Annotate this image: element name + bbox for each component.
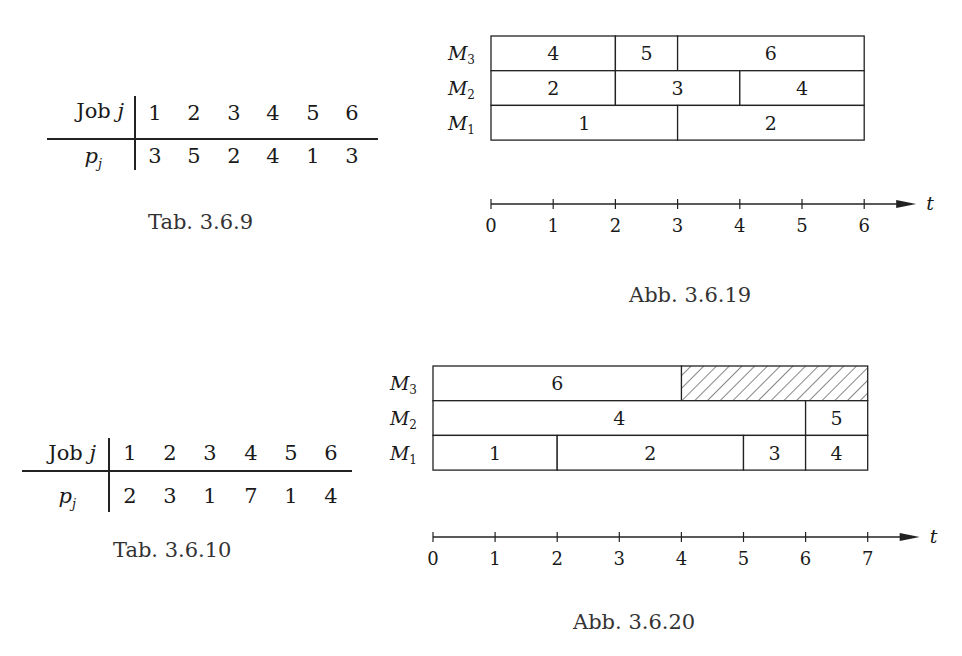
job-label: 1 xyxy=(489,442,501,464)
axis-arrow-icon xyxy=(896,200,916,208)
axis-tick-label: 0 xyxy=(485,215,496,236)
axis-tick-label: 3 xyxy=(672,215,683,236)
machine-label: M1 xyxy=(389,442,417,467)
axis-tick-label: 1 xyxy=(489,548,500,569)
axis-label-t: t xyxy=(930,525,938,547)
machine-label: M1 xyxy=(447,112,475,137)
axis-tick-label: 2 xyxy=(551,548,562,569)
job-label: 6 xyxy=(551,372,563,394)
job-label: 3 xyxy=(672,77,684,99)
axis-tick-label: 7 xyxy=(862,548,873,569)
job-label: 4 xyxy=(831,442,843,464)
job-label: 4 xyxy=(547,42,559,64)
job-label: 3 xyxy=(769,442,781,464)
job-label: 4 xyxy=(796,77,808,99)
axis-tick-label: 6 xyxy=(800,548,811,569)
axis-tick-label: 5 xyxy=(796,215,807,236)
job-label: 4 xyxy=(613,407,625,429)
machine-label: M3 xyxy=(447,42,475,67)
axis-tick-label: 1 xyxy=(547,215,558,236)
job-label: 1 xyxy=(578,112,590,134)
job-label: 2 xyxy=(644,442,656,464)
job-label: 2 xyxy=(547,77,559,99)
axis-label-t: t xyxy=(926,192,934,214)
job-label: 5 xyxy=(640,42,652,64)
axis-tick-label: 2 xyxy=(610,215,621,236)
machine-label: M2 xyxy=(389,407,417,432)
machine-label: M3 xyxy=(389,372,417,397)
idle-time-block xyxy=(681,366,867,401)
gantt-chart-3-6-19: M3456M2234M112t0123456 xyxy=(447,36,934,236)
figure-caption: Abb. 3.6.19 xyxy=(629,283,751,307)
axis-arrow-icon xyxy=(900,533,920,541)
axis-tick-label: 3 xyxy=(614,548,625,569)
gantt-charts: M3456M2234M112t0123456 M36M245M11234t012… xyxy=(0,0,962,656)
axis-tick-label: 5 xyxy=(738,548,749,569)
machine-label: M2 xyxy=(447,77,475,102)
axis-tick-label: 4 xyxy=(734,215,745,236)
job-label: 2 xyxy=(765,112,777,134)
axis-tick-label: 6 xyxy=(858,215,869,236)
axis-tick-label: 4 xyxy=(676,548,687,569)
figure-caption: Abb. 3.6.20 xyxy=(573,610,695,634)
job-label: 6 xyxy=(765,42,777,64)
gantt-chart-3-6-20: M36M245M11234t01234567 xyxy=(389,366,938,569)
axis-tick-label: 0 xyxy=(427,548,438,569)
job-label: 5 xyxy=(831,407,843,429)
